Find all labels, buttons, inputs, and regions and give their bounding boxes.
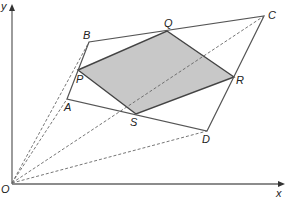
y-axis-arrow-icon [9, 4, 15, 11]
dashed-line-od [12, 131, 207, 183]
label-y: y [0, 0, 8, 12]
label-o: O [1, 183, 10, 195]
label-s: S [130, 116, 138, 128]
geometry-figure: y x O A B C D P Q R S [0, 0, 288, 199]
label-p: P [76, 73, 84, 85]
label-q: Q [164, 17, 173, 29]
position-vectors [12, 16, 264, 183]
label-x: x [275, 187, 282, 199]
label-b: B [83, 29, 90, 41]
label-r: R [236, 74, 244, 86]
diagram-canvas: y x O A B C D P Q R S [0, 0, 288, 199]
dashed-line-ob [12, 42, 89, 183]
label-d: D [202, 133, 210, 145]
shaded-quadrilateral-pqrs [78, 31, 234, 114]
dashed-line-oc [12, 16, 264, 183]
label-c: C [268, 9, 276, 21]
dashed-line-oa [12, 99, 67, 183]
label-a: A [63, 101, 71, 113]
